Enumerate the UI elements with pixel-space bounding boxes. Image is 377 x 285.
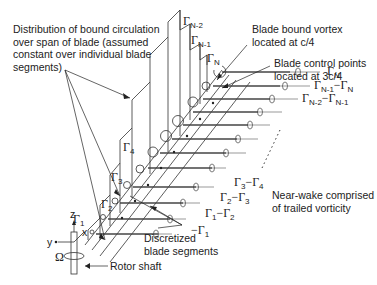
gamma-4-label: Γ4 bbox=[123, 140, 134, 156]
label-near-wake: Near-wake comprised of trailed vorticity bbox=[272, 189, 374, 214]
gamma-n-1-label: ΓN-1 bbox=[191, 33, 211, 49]
trail-label-2: Γ2−Γ3 bbox=[220, 190, 250, 206]
label-bound-vortex: Blade bound vortex located at c/4 bbox=[252, 23, 342, 48]
omega-label: Ω bbox=[55, 250, 64, 265]
gamma-1-label: Γ1 bbox=[73, 212, 84, 228]
gamma-3-label: Γ3 bbox=[111, 170, 122, 186]
gamma-n-label: ΓN bbox=[207, 51, 220, 67]
gamma-n-2-label: ΓN-2 bbox=[183, 14, 203, 30]
gamma-2-label: Γ2 bbox=[101, 197, 112, 213]
rotor-shaft bbox=[71, 232, 77, 274]
label-rotor-shaft: Rotor shaft bbox=[110, 260, 161, 273]
trail-label-n-2: ΓN-2−ΓN-1 bbox=[302, 91, 348, 107]
label-distribution: Distribution of bound circulation over s… bbox=[13, 23, 160, 73]
trail-label-1: Γ1−Γ2 bbox=[205, 206, 235, 222]
axis-y-label: y bbox=[47, 236, 52, 249]
trail-label-3: Γ3−Γ4 bbox=[234, 175, 264, 191]
trail-label-minus-1: −Γ1 bbox=[191, 223, 209, 239]
